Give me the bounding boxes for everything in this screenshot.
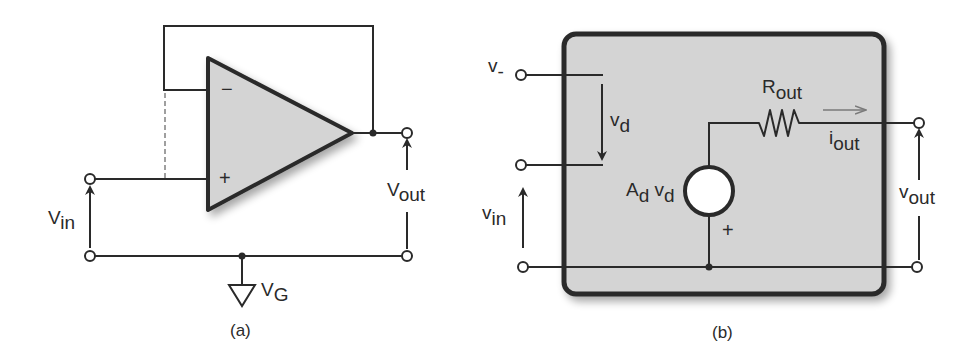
- source-plus-sign: +: [722, 219, 734, 241]
- caption-b: (b): [712, 323, 733, 342]
- bottom-right-terminal: [402, 251, 412, 261]
- vminus-label: v-: [488, 55, 504, 82]
- ground-icon: [229, 285, 255, 306]
- opamp-figure: − + Vin Vout VG (a): [0, 0, 978, 362]
- vplus-terminal: [516, 160, 526, 170]
- vout-terminal-b: [914, 118, 924, 128]
- opamp-model-box: [564, 34, 884, 294]
- dependent-voltage-source-icon: [685, 167, 733, 215]
- vminus-terminal: [516, 70, 526, 80]
- vin-label: Vin: [48, 207, 75, 233]
- panel-a-voltage-follower: − + Vin Vout VG (a): [48, 26, 426, 340]
- bottom-right-terminal-b: [912, 262, 922, 272]
- caption-a: (a): [230, 321, 251, 340]
- output-junction-dot: [370, 130, 377, 137]
- opamp-minus-sign: −: [221, 78, 233, 100]
- vout-label-b: vout: [899, 181, 936, 208]
- vout-terminal: [402, 128, 412, 138]
- vout-label: Vout: [387, 179, 426, 205]
- opamp-plus-sign: +: [219, 167, 231, 189]
- vin-label-b: vin: [482, 202, 506, 229]
- vin-terminal: [85, 174, 95, 184]
- vg-label: VG: [261, 279, 288, 305]
- panel-b-opamp-model: + v- vd vin Ad vd Rout iout vout (b): [482, 34, 936, 342]
- bottom-left-terminal-b: [518, 262, 528, 272]
- bottom-left-terminal: [85, 251, 95, 261]
